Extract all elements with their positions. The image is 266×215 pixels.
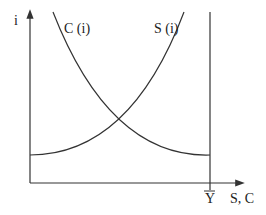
income-marker-label: Y [205,191,215,206]
consumption-curve-label: C (i) [64,21,90,37]
diagram-canvas: i C (i) S (i) Y S, C [0,0,266,215]
x-axis-label: S, C [230,191,254,206]
y-axis-label: i [14,13,18,28]
saving-curve-label: S (i) [154,21,179,37]
